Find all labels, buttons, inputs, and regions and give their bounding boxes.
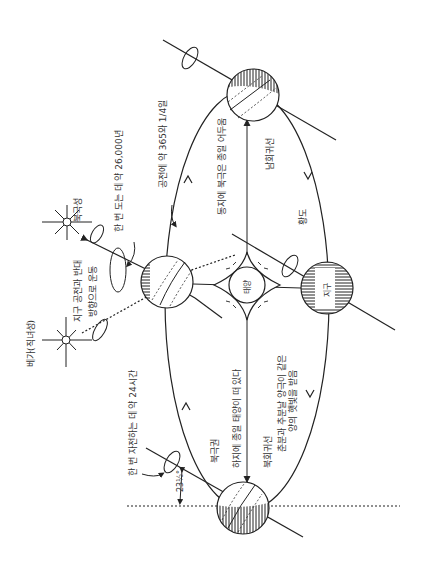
equinox-label-line1: 춘분과 추분날 양극이 같은 xyxy=(277,355,287,452)
orbit-diagram: 북극성 한 번 도는 데 약 26,000년 공전에 약 365와 1/4일 동… xyxy=(0,0,422,581)
diagram-svg xyxy=(0,0,422,581)
earth-label: 지구 xyxy=(321,283,332,297)
equinox-label-line2: 양의 햇빛을 받음 xyxy=(288,370,298,432)
vega-label: 베가(직녀성) xyxy=(26,320,36,367)
tilt-angle-label: 23½° xyxy=(176,470,185,492)
arctic-circle-label: 북극권 xyxy=(210,439,220,463)
ecliptic-label: 황도 xyxy=(298,209,308,225)
vega-star xyxy=(42,317,92,367)
winter-solstice-label: 동지에 북극은 종일 어두움 xyxy=(217,118,227,215)
sun-label: 태양 xyxy=(241,280,252,294)
earth-left xyxy=(141,256,193,308)
polaris-label: 북극성 xyxy=(73,198,83,222)
precession-label: 한 번 도는 데 약 26,000년 xyxy=(114,130,124,232)
summer-solstice-label: 하지에 종일 태양이 떠 있다 xyxy=(232,369,242,468)
tropic-capricorn-label: 남회귀선 xyxy=(265,138,275,170)
precession-direction-line2: 방향으로 운동 xyxy=(88,266,98,317)
revolution-label: 공전에 약 365와 1/4일 xyxy=(158,100,168,188)
polaris-star xyxy=(42,205,92,240)
earth-bottom xyxy=(215,482,272,540)
tropic-cancer-label: 북회귀선 xyxy=(263,436,273,468)
earth-top xyxy=(225,60,282,121)
rotation-label: 한 번 자전하는 데 약 24시간 xyxy=(128,370,138,476)
precession-direction-line1: 지구 공전과 반대 xyxy=(73,260,83,322)
